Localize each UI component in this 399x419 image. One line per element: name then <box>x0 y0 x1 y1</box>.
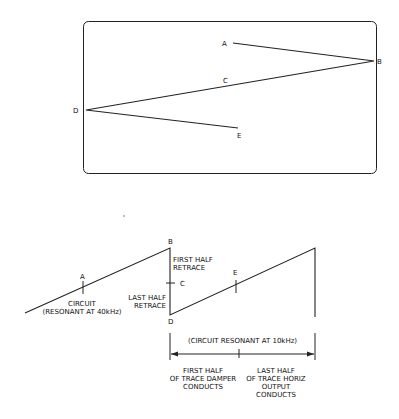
diagram-graphics <box>0 0 399 419</box>
label-circuit-10khz: (CIRCUIT RESONANT AT 10kHz) <box>170 337 315 345</box>
label-first-half-retrace: FIRST HALF RETRACE <box>173 256 213 272</box>
screen-frame <box>84 22 377 174</box>
arrow-right-icon <box>307 352 314 357</box>
scan-path <box>86 43 374 128</box>
label-wave-d: D <box>168 318 173 326</box>
label-wave-b: B <box>168 238 173 246</box>
label-wave-e: E <box>233 269 237 277</box>
arrow-left-icon <box>171 352 178 357</box>
label-top-a: A <box>222 40 227 48</box>
label-wave-c: C <box>180 280 185 288</box>
label-damper-conducts: FIRST HALF OF TRACE DAMPER CONDUCTS <box>168 367 238 391</box>
stray-dot <box>123 215 125 217</box>
label-circuit-40khz: CIRCUIT (RESONANT AT 40kHz) <box>42 300 122 316</box>
label-top-d: D <box>73 107 78 115</box>
label-top-b: B <box>377 58 382 66</box>
label-top-e: E <box>237 132 241 140</box>
label-last-half-retrace: LAST HALF RETRACE <box>118 294 166 310</box>
label-top-c: C <box>223 77 228 85</box>
label-horiz-output-conducts: LAST HALF OF TRACE HORIZ OUTPUT CONDUCTS <box>245 367 307 399</box>
label-wave-a: A <box>80 273 85 281</box>
